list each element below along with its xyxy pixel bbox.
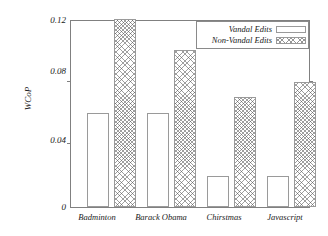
bar-vandal-javascript [267, 176, 289, 207]
bar-vandal-chirstmas [207, 176, 229, 207]
legend-label-vandal-edits: Vandal Edits [229, 25, 272, 34]
bar-vandal-barack-obama [147, 113, 169, 207]
bar-nonvandal-barack-obama [174, 50, 196, 207]
legend-item-vandal-edits: Vandal Edits [197, 24, 306, 35]
legend-item-non-vandal-edits: Non-Vandal Edits [197, 35, 306, 46]
bar-chart: WCoP 0.12 0.08 0.04 0 Badminton Barack O… [0, 0, 328, 236]
legend-label-non-vandal-edits: Non-Vandal Edits [212, 36, 272, 45]
y-axis-title: WCoP [24, 79, 33, 119]
x-tick-label-chirstmas: Chirstmas [190, 212, 258, 222]
y-tick-label-0.12: 0.12 [50, 16, 66, 25]
bar-nonvandal-badminton [114, 19, 136, 207]
y-tick-label-0.04: 0.04 [50, 136, 66, 145]
y-tick-label-0: 0 [62, 203, 67, 212]
tick-left-0.08 [67, 81, 71, 82]
legend-swatch-non-vandal-edits [276, 37, 306, 44]
bar-nonvandal-chirstmas [234, 97, 256, 207]
tick-left-0.04 [67, 143, 71, 144]
legend-swatch-vandal-edits [276, 26, 306, 33]
x-tick-label-javascript: Javascript [251, 212, 319, 222]
legend: Vandal Edits Non-Vandal Edits [196, 21, 309, 49]
bar-nonvandal-javascript [294, 82, 316, 207]
bar-vandal-badminton [87, 113, 109, 207]
y-tick-label-0.08: 0.08 [50, 67, 66, 76]
